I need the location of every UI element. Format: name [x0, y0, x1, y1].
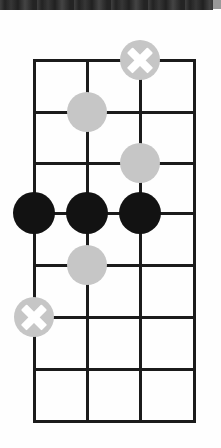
white-stone-marked-c1[interactable] — [120, 40, 160, 80]
cross-mark-icon — [120, 40, 160, 80]
stone-layer — [0, 0, 221, 448]
black-stone-b4[interactable] — [66, 192, 108, 234]
white-stone-c3[interactable] — [120, 143, 160, 183]
white-stone-b5[interactable] — [67, 245, 107, 285]
black-stone-a4[interactable] — [13, 192, 55, 234]
white-stone-marked-a6[interactable] — [14, 297, 54, 337]
white-stone-b2[interactable] — [67, 92, 107, 132]
black-stone-c4[interactable] — [119, 192, 161, 234]
board-diagram — [0, 0, 221, 448]
cross-mark-icon — [14, 297, 54, 337]
